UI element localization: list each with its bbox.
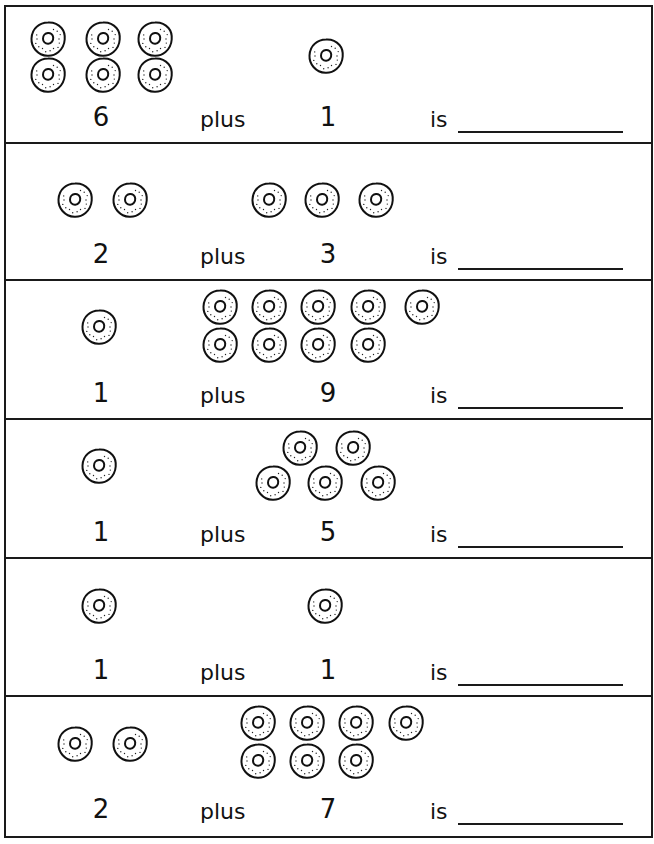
addend-a: 1 [93, 657, 110, 683]
answer-blank[interactable] [458, 684, 623, 686]
addend-a: 6 [93, 104, 110, 130]
cereal-ring-icon [239, 742, 277, 780]
cereal-ring-icon [136, 56, 174, 94]
cereal-ring-icon [56, 181, 94, 219]
problem-row-2: 2plus3is [6, 144, 651, 281]
cereal-ring-icon [239, 704, 277, 742]
answer-blank[interactable] [458, 131, 623, 133]
is-word: is [430, 662, 448, 684]
plus-word: plus [200, 524, 245, 546]
cereal-ring-icon [303, 181, 341, 219]
addend-a: 1 [93, 380, 110, 406]
cereal-ring-icon [29, 20, 67, 58]
cereal-ring-icon [201, 288, 239, 326]
cereal-ring-icon [80, 587, 118, 625]
cereal-ring-icon [111, 181, 149, 219]
problem-row-1: 6plus1is [6, 7, 651, 144]
cereal-ring-icon [337, 742, 375, 780]
worksheet: 6plus1is 2plus3is [4, 5, 653, 838]
cereal-ring-icon [84, 20, 122, 58]
cereal-ring-icon [387, 704, 425, 742]
answer-blank[interactable] [458, 823, 623, 825]
cereal-ring-icon [136, 20, 174, 58]
plus-word: plus [200, 662, 245, 684]
cereal-ring-icon [250, 288, 288, 326]
cereal-ring-icon [254, 464, 292, 502]
cereal-ring-icon [80, 308, 118, 346]
is-word: is [430, 385, 448, 407]
is-word: is [430, 109, 448, 131]
problem-row-3: 1plus9is [6, 283, 651, 420]
addend-b: 7 [320, 796, 337, 822]
answer-blank[interactable] [458, 407, 623, 409]
cereal-ring-icon [250, 326, 288, 364]
cereal-ring-icon [288, 742, 326, 780]
cereal-ring-icon [56, 725, 94, 763]
addend-b: 3 [320, 241, 337, 267]
cereal-ring-icon [357, 181, 395, 219]
cereal-ring-icon [84, 56, 122, 94]
plus-word: plus [200, 109, 245, 131]
addend-b: 1 [320, 104, 337, 130]
cereal-ring-icon [281, 429, 319, 467]
cereal-ring-icon [29, 56, 67, 94]
cereal-ring-icon [307, 37, 345, 75]
is-word: is [430, 801, 448, 823]
cereal-ring-icon [288, 704, 326, 742]
is-word: is [430, 524, 448, 546]
answer-blank[interactable] [458, 546, 623, 548]
is-word: is [430, 246, 448, 268]
cereal-ring-icon [306, 464, 344, 502]
cereal-ring-icon [334, 429, 372, 467]
cereal-ring-icon [349, 288, 387, 326]
problem-row-5: 1plus1is [6, 560, 651, 697]
problem-row-6: 2plus7is [6, 699, 651, 836]
addend-a: 2 [93, 796, 110, 822]
cereal-ring-icon [80, 447, 118, 485]
answer-blank[interactable] [458, 268, 623, 270]
addend-a: 2 [93, 241, 110, 267]
addend-a: 1 [93, 519, 110, 545]
plus-word: plus [200, 801, 245, 823]
addend-b: 9 [320, 380, 337, 406]
cereal-ring-icon [359, 464, 397, 502]
cereal-ring-icon [299, 288, 337, 326]
problem-row-4: 1plus5is [6, 422, 651, 559]
addend-b: 1 [320, 657, 337, 683]
cereal-ring-icon [201, 326, 239, 364]
cereal-ring-icon [250, 181, 288, 219]
cereal-ring-icon [306, 587, 344, 625]
cereal-ring-icon [337, 704, 375, 742]
cereal-ring-icon [349, 326, 387, 364]
addend-b: 5 [320, 519, 337, 545]
plus-word: plus [200, 246, 245, 268]
cereal-ring-icon [111, 725, 149, 763]
plus-word: plus [200, 385, 245, 407]
cereal-ring-icon [403, 288, 441, 326]
cereal-ring-icon [299, 326, 337, 364]
